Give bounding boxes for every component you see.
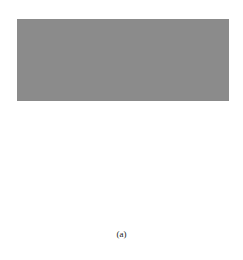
figure-caption: (a) — [0, 229, 243, 239]
car-scene — [0, 0, 243, 230]
